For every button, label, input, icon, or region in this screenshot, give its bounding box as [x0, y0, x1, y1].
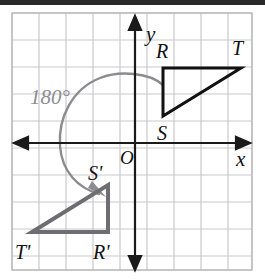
figure-canvas: y x O R T S S' R' T' 180°	[0, 0, 265, 279]
axis-label-x: x	[235, 147, 246, 171]
y-axis-arrow-down	[129, 256, 141, 270]
rotation-figure: y x O R T S S' R' T' 180°	[0, 0, 265, 279]
vertex-label-T-prime: T'	[15, 241, 31, 263]
angle-label-180: 180°	[30, 85, 71, 109]
x-axis-arrow-left	[14, 137, 28, 149]
vertex-label-R: R	[155, 40, 168, 62]
origin-label: O	[120, 147, 134, 168]
vertex-label-T: T	[232, 37, 245, 59]
vertex-label-S-prime: S'	[88, 162, 103, 184]
triangle-r-prime-s-prime-t-prime	[32, 185, 108, 232]
triangle-rst	[163, 68, 241, 116]
y-axis-arrow-up	[129, 16, 141, 30]
vertex-label-S: S	[157, 122, 167, 144]
axis-label-y: y	[144, 22, 156, 46]
vertex-label-R-prime: R'	[92, 241, 110, 263]
